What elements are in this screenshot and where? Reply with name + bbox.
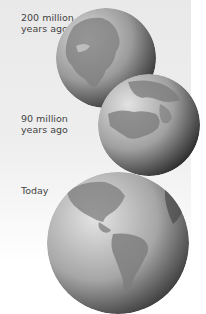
label-line: 200 million (21, 12, 74, 23)
label-90-million-years-ago: 90 million years ago (21, 113, 68, 135)
label-line: Today (21, 185, 48, 196)
globe-today (47, 172, 189, 314)
label-line: 90 million (21, 113, 68, 124)
label-line: years ago (21, 124, 68, 135)
label-today: Today (21, 185, 48, 196)
globe-90-million-years-ago (98, 74, 200, 176)
